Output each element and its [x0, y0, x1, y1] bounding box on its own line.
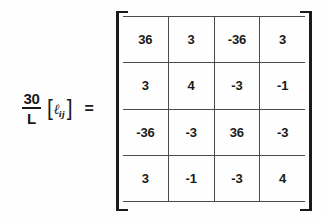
- symbol-close-bracket: ]: [67, 99, 73, 118]
- table-row: 3 4 -3 -1: [123, 63, 305, 109]
- matrix-cell: 3: [169, 17, 215, 62]
- table-row: -36 -3 36 -3: [123, 110, 305, 156]
- matrix-cell: 3: [123, 63, 169, 108]
- ell-subscript-group: ℓ ij: [53, 102, 67, 116]
- table-row: 3 -1 -3 4: [123, 156, 305, 201]
- matrix-cell: -3: [169, 110, 215, 155]
- matrix-cell: 36: [215, 110, 261, 155]
- left-hand-side-expression: 30 L [ ℓ ij ] =: [22, 84, 94, 132]
- matrix-cell: 36: [123, 17, 169, 62]
- matrix: 36 3 -36 3 3 4 -3 -1 -36 -3 36 -3 3 -1 -…: [116, 11, 312, 207]
- matrix-cell: 3: [260, 17, 305, 62]
- equals-sign: =: [85, 101, 94, 117]
- matrix-symbol: [ ℓ ij ]: [47, 99, 73, 117]
- table-row: 36 3 -36 3: [123, 17, 305, 63]
- matrix-cell: -1: [260, 63, 305, 108]
- ell-subscript-ij: ij: [59, 110, 65, 118]
- matrix-cell: -36: [215, 17, 261, 62]
- matrix-cell: 4: [260, 156, 305, 201]
- matrix-cell: -36: [123, 110, 169, 155]
- matrix-grid: 36 3 -36 3 3 4 -3 -1 -36 -3 36 -3 3 -1 -…: [123, 16, 305, 202]
- fraction-denominator: L: [26, 109, 37, 126]
- matrix-cell: -3: [215, 156, 261, 201]
- matrix-cell: 3: [123, 156, 169, 201]
- matrix-cell: -3: [215, 63, 261, 108]
- fraction-numerator: 30: [22, 91, 40, 107]
- matrix-cell: 4: [169, 63, 215, 108]
- equation-figure: 30 L [ ℓ ij ] = 36 3 -36 3 3 4: [0, 0, 322, 220]
- matrix-cell: -1: [169, 156, 215, 201]
- coefficient-fraction: 30 L: [22, 91, 41, 126]
- matrix-cell: -3: [260, 110, 305, 155]
